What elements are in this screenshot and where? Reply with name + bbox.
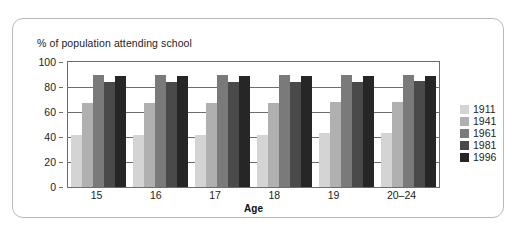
bar-1911-17 [195, 135, 206, 188]
x-tick-label: 19 [328, 189, 340, 201]
bar-1961-16 [155, 75, 166, 188]
chart-frame: % of population attending school 0204060… [12, 18, 504, 218]
legend-item-1941: 1941 [460, 116, 496, 127]
bar-group [319, 62, 374, 187]
x-tick-label: 20–24 [387, 189, 416, 201]
bar-1981-18 [290, 82, 301, 187]
x-tick-label: 15 [91, 189, 103, 201]
x-axis: 151617181920–24 [67, 189, 440, 201]
bar-1961-18 [279, 75, 290, 188]
bar-groups [68, 62, 439, 187]
plot-area [67, 61, 440, 188]
bar-group [195, 62, 250, 187]
legend: 19111941196119811996 [460, 104, 496, 163]
bar-1941-19 [330, 102, 341, 187]
legend-label: 1981 [473, 140, 496, 151]
y-tick-label: 80 [44, 81, 56, 93]
legend-label: 1941 [473, 116, 496, 127]
legend-label: 1911 [473, 104, 496, 115]
bar-1981-16 [166, 82, 177, 187]
y-tick-mark [59, 87, 63, 88]
bar-1911-15 [71, 135, 82, 188]
legend-swatch-icon [460, 129, 469, 138]
bar-1996-17 [239, 76, 250, 187]
legend-swatch-icon [460, 105, 469, 114]
bar-1961-20–24 [403, 75, 414, 188]
bar-1996-18 [301, 76, 312, 187]
bar-1996-16 [177, 76, 188, 187]
bar-1961-15 [93, 75, 104, 188]
y-tick-mark [59, 62, 63, 63]
bar-1911-16 [133, 135, 144, 188]
legend-swatch-icon [460, 117, 469, 126]
y-tick-mark [59, 137, 63, 138]
y-tick-label: 100 [38, 56, 56, 68]
bar-1961-17 [217, 75, 228, 188]
bar-group [133, 62, 188, 187]
bar-1981-17 [228, 82, 239, 187]
bar-1996-15 [115, 76, 126, 187]
bar-1981-15 [104, 82, 115, 187]
chart-title: % of population attending school [37, 37, 192, 49]
bar-1941-15 [82, 103, 93, 187]
bar-1941-18 [268, 103, 279, 187]
y-tick-mark [59, 162, 63, 163]
legend-item-1961: 1961 [460, 128, 496, 139]
bar-1911-19 [319, 133, 330, 187]
y-tick-label: 0 [50, 181, 56, 193]
legend-swatch-icon [460, 153, 469, 162]
y-axis: 020406080100 [13, 61, 63, 187]
legend-label: 1961 [473, 128, 496, 139]
y-tick-label: 20 [44, 156, 56, 168]
bar-1911-20–24 [381, 133, 392, 187]
legend-item-1981: 1981 [460, 140, 496, 151]
y-tick-mark [59, 112, 63, 113]
bar-1996-20–24 [425, 76, 436, 187]
legend-item-1911: 1911 [460, 104, 496, 115]
bar-1981-19 [352, 82, 363, 187]
bar-1941-20–24 [392, 102, 403, 187]
bar-1911-18 [257, 135, 268, 188]
bar-1981-20–24 [414, 81, 425, 187]
bar-1996-19 [363, 76, 374, 187]
x-tick-label: 16 [150, 189, 162, 201]
y-tick-label: 60 [44, 106, 56, 118]
legend-swatch-icon [460, 141, 469, 150]
legend-label: 1996 [473, 152, 496, 163]
legend-item-1996: 1996 [460, 152, 496, 163]
x-axis-title: Age [67, 203, 440, 214]
bar-group [257, 62, 312, 187]
bar-1941-17 [206, 103, 217, 187]
bar-group [381, 62, 436, 187]
bar-1941-16 [144, 103, 155, 187]
x-tick-label: 18 [268, 189, 280, 201]
bar-group [71, 62, 126, 187]
bar-1961-19 [341, 75, 352, 188]
y-tick-mark [59, 187, 63, 188]
y-tick-label: 40 [44, 131, 56, 143]
x-tick-label: 17 [209, 189, 221, 201]
